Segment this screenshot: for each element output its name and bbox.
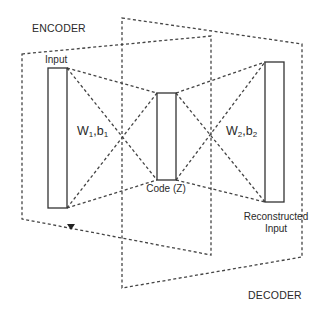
encoder-label: ENCODER <box>32 23 86 34</box>
bias-subscript: 1 <box>104 130 108 139</box>
weight-symbol: W <box>226 124 238 138</box>
input-label: Input <box>45 55 67 65</box>
reconstructed-label-line1: Reconstructed <box>244 212 308 222</box>
bias-symbol: b <box>97 124 104 138</box>
bias-subscript: 2 <box>253 130 257 139</box>
code-layer <box>157 93 176 180</box>
reconstructed-layer <box>265 62 284 202</box>
arrowhead-icon <box>67 224 75 230</box>
decoder-label: DECODER <box>248 290 302 301</box>
reconstructed-label-line2: Input <box>265 224 287 234</box>
bias-symbol: b <box>246 124 253 138</box>
autoencoder-diagram <box>0 0 319 312</box>
weight-symbol: W <box>77 124 89 138</box>
code-label: Code (Z) <box>146 184 185 194</box>
encoder-weights-label: W1,b1 <box>77 125 108 139</box>
decoder-weights-label: W2,b2 <box>226 125 257 139</box>
input-layer <box>48 68 67 208</box>
